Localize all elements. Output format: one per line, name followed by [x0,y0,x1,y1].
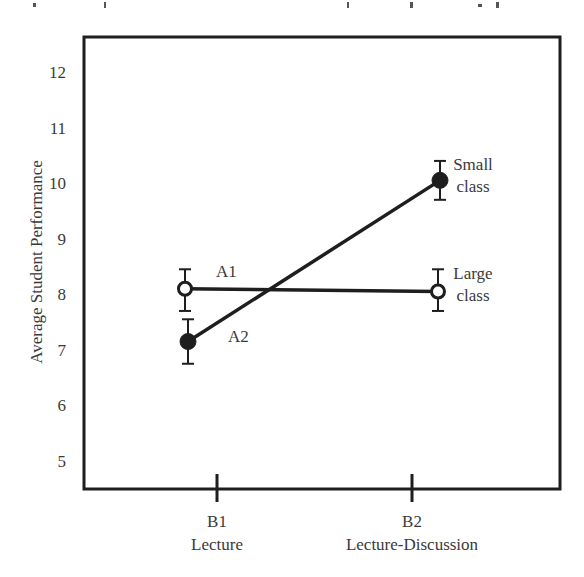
y-tick-label: 7 [58,341,67,360]
filled-circle-marker-icon [180,334,196,350]
y-tick-label: 6 [58,396,67,415]
series-line [185,289,438,292]
y-tick-label: 10 [49,174,66,193]
series-name-label: A2 [228,327,249,346]
interaction-line-chart: 56789101112Average Student PerformanceB1… [0,0,584,577]
x-axis: B1LectureB2Lecture-Discussion [191,474,479,554]
open-circle-marker-icon [179,282,192,295]
series-a2: A2Smallclass [180,155,493,364]
filled-circle-marker-icon [432,172,448,188]
series-end-label: Large [453,264,492,283]
y-axis: 56789101112 [49,63,67,471]
series-line [188,180,440,341]
y-tick-label: 9 [58,230,67,249]
x-tick-name: Lecture-Discussion [346,535,479,554]
x-tick-code: B2 [402,512,422,531]
x-tick-code: B1 [207,512,227,531]
series-a1: A1Largeclass [179,262,493,311]
x-tick-name: Lecture [191,535,243,554]
y-tick-label: 12 [49,63,66,82]
y-tick-label: 5 [58,452,67,471]
open-circle-marker-icon [432,285,445,298]
series-name-label: A1 [216,262,237,281]
y-tick-label: 8 [58,285,67,304]
series-end-label: Small [453,155,493,174]
series-end-label: class [456,286,489,305]
y-axis-title: Average Student Performance [27,160,46,364]
y-tick-label: 11 [50,119,66,138]
series-end-label: class [456,177,489,196]
plot-frame [84,37,560,489]
